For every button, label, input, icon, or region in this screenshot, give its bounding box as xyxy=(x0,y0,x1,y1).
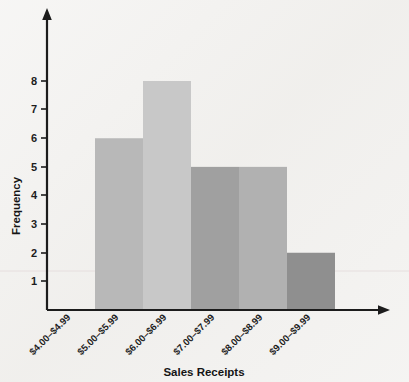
y-axis: 8 7 6 5 4 3 2 1 Frequency xyxy=(10,8,52,310)
y-axis-arrowhead xyxy=(42,8,52,20)
y-tick-label-1: 1 xyxy=(31,275,37,287)
bar-4 xyxy=(239,167,287,310)
bar-1 xyxy=(95,138,143,310)
y-tick-label-8: 8 xyxy=(31,75,37,87)
y-tick-label-5: 5 xyxy=(31,161,37,173)
y-tick-label-7: 7 xyxy=(31,103,37,115)
chart-canvas: 8 7 6 5 4 3 2 1 Frequency $4.00–$4.99 $5… xyxy=(0,0,409,382)
bar-2 xyxy=(143,81,191,310)
x-category-label-1: $4.00–$4.99 xyxy=(27,312,73,358)
bars-group xyxy=(95,81,335,310)
histogram-chart: 8 7 6 5 4 3 2 1 Frequency $4.00–$4.99 $5… xyxy=(0,0,409,382)
y-tick-label-6: 6 xyxy=(31,132,37,144)
x-category-label-2: $5.00–$5.99 xyxy=(75,312,121,358)
x-category-label-4: $7.00–$7.99 xyxy=(171,312,217,358)
x-axis: $4.00–$4.99 $5.00–$5.99 $6.00–$6.99 $7.0… xyxy=(27,305,390,378)
y-tick-label-3: 3 xyxy=(31,218,37,230)
x-category-labels: $4.00–$4.99 $5.00–$5.99 $6.00–$6.99 $7.0… xyxy=(27,312,313,358)
x-category-label-3: $6.00–$6.99 xyxy=(123,312,169,358)
y-tick-label-4: 4 xyxy=(31,189,38,201)
x-category-label-5: $8.00–$8.99 xyxy=(219,312,265,358)
bar-3 xyxy=(191,167,239,310)
x-axis-title: Sales Receipts xyxy=(163,366,244,378)
bar-5 xyxy=(287,253,335,310)
x-category-label-6: $9.00–$9.99 xyxy=(267,312,313,358)
y-tick-label-2: 2 xyxy=(31,247,37,259)
x-axis-arrowhead xyxy=(378,305,390,315)
y-axis-title: Frequency xyxy=(10,176,22,235)
